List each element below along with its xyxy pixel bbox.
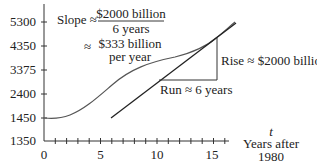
slope-numerator: $2000 billion: [96, 6, 166, 21]
slope-denominator: 6 years: [112, 21, 149, 36]
rate-line2: per year: [109, 49, 152, 64]
y-label-1350: 1350: [10, 133, 36, 148]
approx-symbol: ≈: [84, 39, 91, 54]
x-label-10: 10: [151, 147, 164, 162]
y-label-2400: 2400: [10, 86, 36, 101]
y-label-3375: 3375: [10, 62, 36, 77]
x-label-0: 0: [41, 147, 48, 162]
x-label-5: 5: [97, 147, 104, 162]
chart: 5300 4350 3375 2400 1450 1350 0 5 10 15 …: [0, 0, 317, 164]
slope-label: Slope ≈: [57, 12, 97, 27]
y-label-1450: 1450: [10, 110, 36, 125]
y-tick-labels: 5300 4350 3375 2400 1450 1350: [10, 14, 36, 148]
rise-label: Rise ≈ $2000 billion: [221, 53, 317, 68]
x-axis-title-line2: 1980: [258, 149, 284, 164]
y-label-4350: 4350: [10, 38, 36, 53]
run-label: Run ≈ 6 years: [160, 82, 232, 97]
x-tick-labels: 0 5 10 15: [41, 147, 219, 162]
x-label-15: 15: [206, 147, 219, 162]
y-label-5300: 5300: [10, 14, 36, 29]
